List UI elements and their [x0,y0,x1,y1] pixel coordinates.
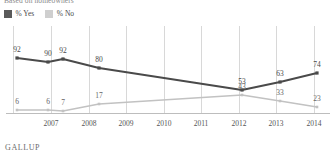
x-axis-tick-2013: 2013 [269,119,284,128]
data-label-yes-90: 90 [44,49,52,58]
data-label-no-33: 33 [276,88,284,97]
gallup-line-chart: Based on homeowners % Yes % No 200720082… [0,0,332,161]
data-point-marker [47,109,50,112]
x-axis-tick-2008: 2008 [82,119,97,128]
data-label-yes-80: 80 [95,55,103,64]
x-axis-tick-2011: 2011 [194,119,209,128]
gallup-logo: GALLUP [5,143,40,152]
data-point-marker [316,106,319,109]
data-point-marker [16,109,19,112]
data-point-marker [278,80,281,83]
data-label-no-6: 6 [46,97,50,106]
legend-label-yes: % Yes [16,9,35,18]
data-label-yes-92: 92 [13,45,21,54]
legend-item-yes[interactable]: % Yes [4,9,34,18]
data-point-marker [97,66,100,69]
data-label-no-6: 6 [15,97,19,106]
data-label-no-43: 43 [238,82,246,91]
x-axis-tick-2014: 2014 [307,119,322,128]
data-point-marker [279,100,282,103]
x-axis-tick-2010: 2010 [157,119,172,128]
data-label-yes-92: 92 [59,46,67,55]
data-point-marker [98,103,101,106]
x-axis-tick-2009: 2009 [119,119,134,128]
data-point-marker [46,60,49,63]
data-label-yes-63: 63 [276,69,284,78]
data-label-no-17: 17 [95,91,103,100]
chart-legend: % Yes % No [4,9,74,18]
legend-label-no: % No [57,9,74,18]
data-label-no-7: 7 [61,98,65,107]
x-axis-tick-2007: 2007 [44,119,59,128]
data-point-marker [61,57,64,60]
chart-subtitle: Based on homeowners [4,0,74,5]
data-label-yes-74: 74 [313,60,321,69]
legend-swatch-no-icon [45,10,53,18]
series-line-yes [17,58,317,90]
x-axis-labels: 20072008200920102011201220132014 [0,119,332,133]
data-point-marker [315,71,318,74]
data-point-marker [15,56,18,59]
x-axis-tick-2012: 2012 [232,119,247,128]
legend-item-no[interactable]: % No [45,9,74,18]
data-label-no-23: 23 [313,94,321,103]
data-point-marker [241,94,244,97]
legend-swatch-yes-icon [4,10,12,18]
data-point-marker [62,110,65,113]
